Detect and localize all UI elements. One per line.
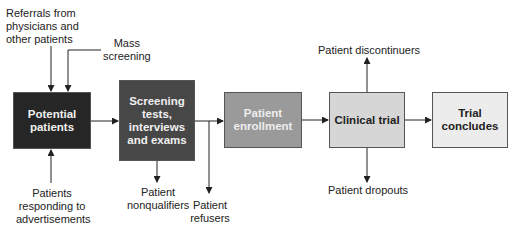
discontinuers-label: Patient discontinuers (318, 44, 418, 57)
node-potential-patients: Potential patients (13, 92, 91, 149)
mass-screening-label: Mass screening (103, 37, 151, 63)
refusers-label: Patient refusers (189, 199, 231, 225)
nonqualifiers-label: Patient nonqualifiers (127, 186, 189, 212)
mass-screening-arrow (68, 50, 101, 91)
node-trial-concludes: Trial concludes (432, 92, 508, 148)
referrals-label: Referrals from physicians and other pati… (6, 7, 79, 46)
advertisements-label: Patients responding to advertisements (16, 187, 88, 226)
dropouts-label: Patient dropouts (328, 184, 408, 197)
node-screening: Screening tests, interviews and exams (119, 80, 195, 161)
node-clinical-trial: Clinical trial (329, 92, 405, 148)
node-enrollment: Patient enrollment (224, 92, 302, 148)
